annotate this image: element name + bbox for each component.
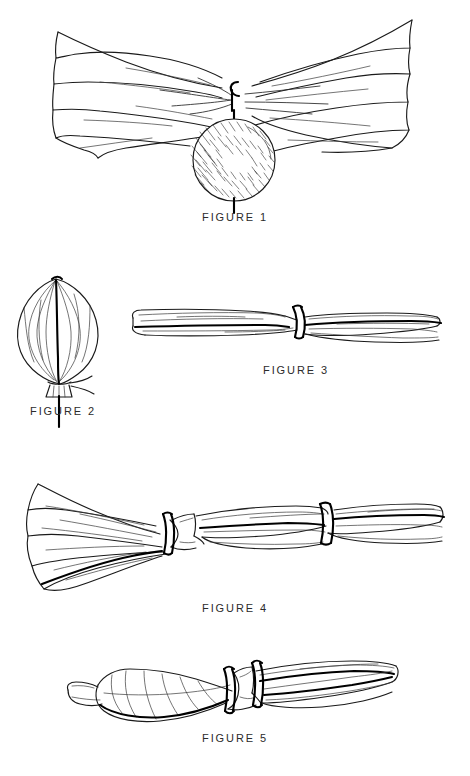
figure-1-caption: FIGURE 1 xyxy=(0,211,470,223)
figure-5-caption: FIGURE 5 xyxy=(0,732,470,744)
figure-4-caption: FIGURE 4 xyxy=(0,602,470,614)
figure-2-drawing xyxy=(10,270,125,400)
figure-3-drawing xyxy=(125,300,445,365)
figure-3-caption: FIGURE 3 xyxy=(190,364,402,376)
figure-1-drawing xyxy=(40,10,430,215)
figure-4-drawing xyxy=(20,462,450,602)
drawing-sheet: FIGURE 1 FIGURE 2 xyxy=(0,0,470,776)
figure-5-drawing xyxy=(60,645,400,735)
figure-2-caption: FIGURE 2 xyxy=(0,405,126,417)
